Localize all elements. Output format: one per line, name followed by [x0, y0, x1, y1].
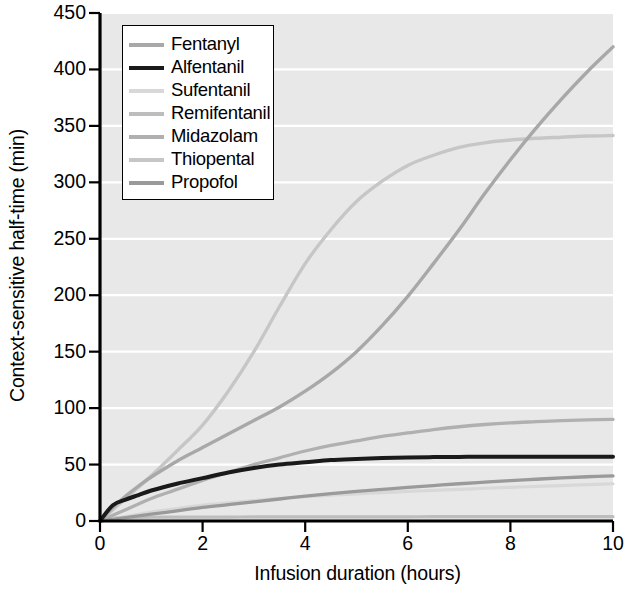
legend-item-alfentanil: Alfentanil [129, 56, 273, 79]
legend-label: Midazolam [171, 127, 258, 146]
legend-item-sufentanil: Sufentanil [129, 79, 273, 102]
legend-swatch-icon [129, 135, 164, 139]
legend-swatch-icon [129, 112, 164, 116]
chart-legend: FentanylAlfentanilSufentanilRemifentanil… [122, 25, 274, 200]
legend-label: Remifentanil [171, 104, 270, 123]
legend-label: Thiopental [171, 150, 254, 169]
legend-item-fentanyl: Fentanyl [129, 33, 273, 56]
legend-item-midazolam: Midazolam [129, 125, 273, 148]
legend-label: Propofol [171, 173, 238, 192]
legend-swatch-icon [129, 181, 164, 185]
legend-item-propofol: Propofol [129, 171, 273, 194]
legend-swatch-icon [129, 66, 164, 70]
legend-swatch-icon [129, 43, 164, 47]
legend-swatch-icon [129, 158, 164, 162]
legend-label: Fentanyl [171, 35, 240, 54]
legend-label: Alfentanil [171, 58, 244, 77]
legend-swatch-icon [129, 89, 164, 93]
legend-item-remifentanil: Remifentanil [129, 102, 273, 125]
legend-item-thiopental: Thiopental [129, 148, 273, 171]
legend-label: Sufentanil [171, 81, 250, 100]
